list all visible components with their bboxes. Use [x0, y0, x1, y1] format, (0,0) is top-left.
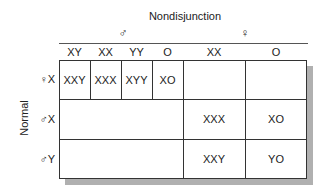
- col-header: XY: [59, 46, 90, 58]
- table-cell: XXX: [90, 60, 121, 99]
- side-label: Normal: [18, 98, 30, 138]
- diagram-title: Nondisjunction: [0, 10, 330, 22]
- table-cell: XXX: [183, 99, 245, 139]
- row-label: ♂X: [33, 113, 55, 125]
- table-cell: [59, 139, 183, 179]
- table-cell: [245, 60, 307, 99]
- row-label: ♀X: [33, 73, 55, 85]
- table-cell: YO: [245, 139, 307, 179]
- header-divider: [59, 43, 308, 44]
- female-symbol: ♀: [235, 26, 255, 40]
- col-header: YY: [121, 46, 152, 58]
- row-label: ♂Y: [33, 153, 55, 165]
- table-cell: [183, 60, 245, 99]
- col-header: XX: [183, 46, 245, 58]
- table-cell: [59, 99, 183, 139]
- col-header: O: [152, 46, 183, 58]
- table-cell: XO: [152, 60, 183, 99]
- table-shadow: [65, 179, 313, 185]
- col-header: XX: [90, 46, 121, 58]
- male-symbol: ♂: [113, 26, 133, 40]
- table-cell: XXY: [59, 60, 90, 99]
- table-cell: XO: [245, 99, 307, 139]
- col-header: O: [245, 46, 307, 58]
- table-cell: XYY: [121, 60, 152, 99]
- table-cell: XXY: [183, 139, 245, 179]
- table-shadow: [307, 66, 313, 185]
